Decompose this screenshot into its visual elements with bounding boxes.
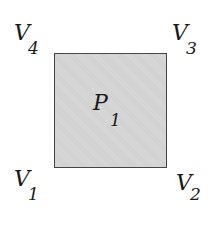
vertex-v4-index: 4 <box>28 40 39 57</box>
polygon-label-index: 1 <box>110 112 121 129</box>
polygon-label: P <box>93 92 108 114</box>
vertex-v3-index: 3 <box>186 40 197 57</box>
vertex-v2-index: 2 <box>190 186 201 203</box>
vertex-v1-index: 1 <box>28 186 39 203</box>
